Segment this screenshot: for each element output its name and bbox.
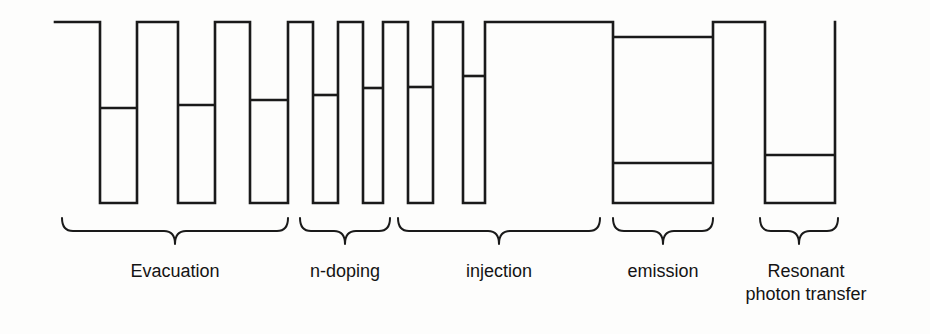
- region-label-resonant-line2: photon transfer: [745, 284, 866, 304]
- conduction-band-profile: [55, 22, 835, 203]
- figure-canvas: Evacuation n-doping injection emission R…: [0, 0, 930, 334]
- region-brace: [398, 218, 600, 244]
- region-label-injection: injection: [466, 261, 532, 281]
- region-label-n-doping: n-doping: [310, 261, 380, 281]
- region-label-emission: emission: [627, 261, 698, 281]
- band-edge-polyline: [55, 22, 835, 203]
- band-diagram: Evacuation n-doping injection emission R…: [0, 0, 930, 334]
- region-brace: [760, 218, 838, 244]
- region-braces-group: [62, 218, 838, 244]
- region-brace: [613, 218, 713, 244]
- region-brace: [300, 218, 390, 244]
- region-label-resonant-line1: Resonant: [767, 261, 844, 281]
- region-brace: [62, 218, 288, 244]
- region-label-evacuation: Evacuation: [130, 261, 219, 281]
- energy-levels-group: [100, 37, 835, 163]
